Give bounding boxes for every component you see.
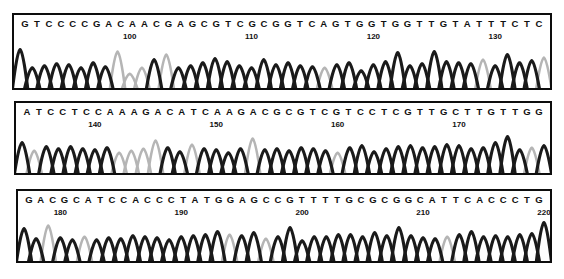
base-letter: G bbox=[162, 17, 174, 31]
base-letter: A bbox=[116, 105, 128, 119]
base-letter: G bbox=[533, 105, 545, 119]
base-letter: C bbox=[67, 17, 79, 31]
base-letter: A bbox=[127, 17, 139, 31]
base-letter: T bbox=[521, 193, 533, 207]
base-letter: G bbox=[248, 193, 260, 207]
trace-peak bbox=[246, 233, 261, 261]
base-letter: G bbox=[403, 193, 415, 207]
base-letter: A bbox=[212, 105, 224, 119]
base-letter: C bbox=[379, 193, 391, 207]
base-sequence-row-1: GTCCCCGACAACGAGCGTCGCGGTCAGTGGTGGTTGTATT… bbox=[14, 17, 550, 31]
base-letter: A bbox=[318, 17, 330, 31]
base-letter: G bbox=[282, 17, 294, 31]
base-letter: C bbox=[47, 193, 59, 207]
base-letter: C bbox=[390, 105, 402, 119]
base-letter: A bbox=[152, 105, 164, 119]
base-letter: A bbox=[174, 17, 186, 31]
base-letter: G bbox=[225, 193, 237, 207]
trace-peak bbox=[16, 143, 30, 173]
position-tick-label: 130 bbox=[488, 31, 501, 43]
base-letter: G bbox=[140, 105, 152, 119]
base-letter: C bbox=[165, 193, 177, 207]
base-letter: T bbox=[449, 17, 461, 31]
base-letter: C bbox=[234, 17, 246, 31]
base-letter: C bbox=[355, 193, 367, 207]
base-letter: G bbox=[91, 17, 103, 31]
base-letter: C bbox=[306, 17, 318, 31]
sequencing-chromatogram-figure: GTCCCCGACAACGAGCGTCGCGGTCAGTGGTGGTTGTATT… bbox=[0, 0, 564, 279]
base-letter: T bbox=[308, 193, 320, 207]
trace-peak bbox=[210, 232, 225, 261]
base-letter: C bbox=[43, 17, 55, 31]
base-letter: C bbox=[198, 17, 210, 31]
base-letter: G bbox=[19, 17, 31, 31]
base-letter: G bbox=[402, 105, 414, 119]
base-letter: C bbox=[55, 17, 67, 31]
trace-peak bbox=[512, 150, 527, 173]
base-letter: A bbox=[426, 193, 438, 207]
chromatogram-panel-1: GTCCCCGACAACGAGCGTCGCGGTCAGTGGTGGTTGTATT… bbox=[12, 13, 552, 90]
base-letter: G bbox=[438, 105, 450, 119]
chromatogram-panel-2: ATCCTCCAAAGACATCAAGACGCGTCGTCCTCGTTGCTTG… bbox=[14, 101, 552, 175]
base-letter: C bbox=[258, 17, 270, 31]
base-letter: C bbox=[260, 193, 272, 207]
position-tick-label: 110 bbox=[245, 31, 258, 43]
base-letter: T bbox=[31, 17, 43, 31]
trace-peak bbox=[305, 67, 320, 88]
base-letter: C bbox=[509, 17, 521, 31]
base-letter: C bbox=[106, 193, 118, 207]
base-letter: C bbox=[57, 105, 69, 119]
base-letter: T bbox=[497, 17, 509, 31]
trace-peak bbox=[65, 240, 80, 261]
trace-plot-3 bbox=[18, 218, 550, 261]
base-letter: G bbox=[186, 17, 198, 31]
base-letter: A bbox=[104, 105, 116, 119]
base-letter: T bbox=[462, 105, 474, 119]
base-letter: A bbox=[176, 105, 188, 119]
base-letter: A bbox=[461, 17, 473, 31]
trace-peak bbox=[147, 60, 162, 88]
base-letter: T bbox=[222, 17, 234, 31]
base-letter: A bbox=[139, 17, 151, 31]
base-letter: C bbox=[462, 193, 474, 207]
base-letter: A bbox=[247, 105, 259, 119]
base-letter: T bbox=[188, 105, 200, 119]
position-tick-label: 100 bbox=[123, 31, 136, 43]
base-letter: C bbox=[79, 17, 91, 31]
trace-svg bbox=[14, 45, 550, 88]
base-letter: A bbox=[82, 193, 94, 207]
base-letter: G bbox=[354, 17, 366, 31]
trace-peak bbox=[536, 223, 550, 261]
base-letter: G bbox=[246, 17, 258, 31]
base-letter: G bbox=[485, 105, 497, 119]
base-sequence-row-3: GACGCATCCACCCTATGGAGCCGTTTTGCGCGGCATTCAC… bbox=[18, 193, 550, 207]
base-letter: T bbox=[294, 17, 306, 31]
base-letter: G bbox=[270, 17, 282, 31]
base-letter: G bbox=[390, 17, 402, 31]
base-letter: G bbox=[23, 193, 35, 207]
trace-plot-2 bbox=[16, 130, 550, 173]
trace-plot-1 bbox=[14, 45, 550, 88]
trace-peak bbox=[536, 146, 550, 173]
base-letter: C bbox=[450, 105, 462, 119]
base-letter: T bbox=[509, 105, 521, 119]
trace-peak bbox=[172, 152, 187, 173]
trace-peak bbox=[428, 239, 443, 261]
base-letter: G bbox=[391, 193, 403, 207]
base-letter: C bbox=[115, 17, 127, 31]
base-letter: G bbox=[402, 17, 414, 31]
trace-svg bbox=[16, 130, 550, 173]
base-letter: A bbox=[35, 193, 47, 207]
base-letter: T bbox=[378, 17, 390, 31]
base-letter: T bbox=[485, 17, 497, 31]
base-letter: A bbox=[236, 193, 248, 207]
trace-peak bbox=[463, 64, 478, 88]
base-letter: C bbox=[45, 105, 57, 119]
base-letter: T bbox=[307, 105, 319, 119]
base-letter: T bbox=[201, 193, 213, 207]
base-letter: T bbox=[438, 193, 450, 207]
chromatogram-panel-3: GACGCATCCACCCTATGGAGCCGTTTTGCGCGGCATTCAC… bbox=[16, 189, 552, 263]
trace-svg bbox=[18, 218, 550, 261]
base-letter: T bbox=[296, 193, 308, 207]
base-letter: C bbox=[153, 193, 165, 207]
